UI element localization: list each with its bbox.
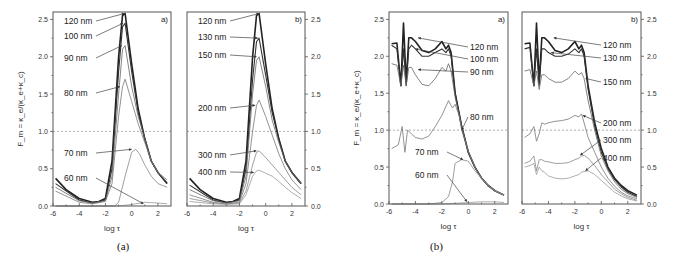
y-tick-label: 1.5 [38,91,48,98]
y-tick-label: 0.5 [647,164,657,171]
annotation-label: 130 nm [198,32,226,42]
annotation-arrow [415,49,468,59]
annotation-label: 60 nm [64,173,88,183]
x-tick-label: -4 [412,208,418,215]
x-tick-label: 0 [130,210,134,217]
annotation-label: 120 nm [64,16,92,26]
figure-canvas: -6-4-202log τ0.00.51.01.52.02.5F_m = κ_e… [0,0,675,266]
arrow-head-icon [255,37,258,40]
y-axis-label: F_m = κ_e/(κ_e+κ_c) [352,70,361,146]
y-tick-label: 1.5 [647,90,657,97]
annotation-label: 400 nm [603,153,631,163]
arrow-head-icon [129,148,132,151]
x-tick-label: 2 [493,208,497,215]
y-tick-label: 2.0 [311,53,321,60]
x-tick-label: -2 [102,210,108,217]
panel-a-right: -6-4-202log τ0.00.51.01.52.02.5b)120 nm1… [184,12,321,233]
y-tick-label: 0.0 [311,203,321,210]
annotation-arrow [96,13,124,21]
annotation-label: 400 nm [198,167,226,177]
panel-label: a) [498,15,505,24]
y-tick-label: 2.5 [38,16,48,23]
y-tick-label: 1.0 [38,128,48,135]
series-line-90-nm [392,64,504,195]
y-axis-label: F_m = κ_e/(κ_e+κ_c) [16,71,25,147]
annotation-label: 120 nm [198,16,226,26]
x-tick-label: -6 [519,208,525,215]
y-tick-label: 2.5 [311,16,321,23]
annotation-arrow [96,23,123,36]
arrow-head-icon [418,37,421,40]
caption-a: (a) [117,240,130,253]
panel-label: a) [161,15,168,24]
x-tick-label: 0 [466,208,470,215]
series-line-150-nm [525,70,637,198]
y-tick-label: 1.0 [374,127,384,134]
y-tick-label: 0.5 [38,165,48,172]
plot-frame [389,12,508,204]
annotation-label: 80 nm [64,88,88,98]
arrow-head-icon [252,104,255,107]
annotation-label: 200 nm [198,103,226,113]
x-axis-label: log τ [238,224,255,233]
y-tick-label: 1.5 [374,90,384,97]
x-tick-label: 0 [264,210,268,217]
annotation-label: 130 nm [603,53,631,63]
y-tick-label: 0.5 [374,164,384,171]
annotation-arrow [551,53,601,58]
panel-b-right: -6-4-202log τ0.00.51.01.52.02.5b)120 nm1… [519,12,657,231]
annotation-label: 90 nm [64,53,88,63]
annotation-label: 70 nm [64,148,88,158]
annotation-label: 90 nm [470,67,494,77]
annotation-label: 60 nm [415,170,439,180]
annotation-label: 200 nm [603,118,631,128]
y-tick-label: 2.0 [647,53,657,60]
y-tick-label: 2.5 [374,16,384,23]
annotation-label: 100 nm [64,31,92,41]
annotation-label: 80 nm [470,112,494,122]
panel-b-left: -6-4-202log τ0.00.51.01.52.02.5F_m = κ_e… [352,12,508,231]
y-tick-label: 2.5 [647,16,657,23]
annotation-arrow [418,38,468,47]
y-tick-label: 0.5 [311,165,321,172]
annotation-label: 150 nm [198,50,226,60]
series-line-70-nm [392,160,504,204]
annotation-label: 150 nm [603,77,631,87]
annotation-label: 120 nm [603,40,631,50]
panel-label: b) [295,15,302,24]
x-axis-label: log τ [573,222,590,231]
annotation-label: 70 nm [415,147,439,157]
caption-b: (b) [430,240,443,253]
annotation-label: 300 nm [603,135,631,145]
series-line-150-nm [190,57,302,203]
x-tick-label: -2 [439,208,445,215]
arrow-head-icon [418,68,421,71]
annotation-label: 100 nm [470,54,498,64]
x-tick-label: -4 [76,210,82,217]
y-tick-label: 0.0 [374,201,384,208]
x-tick-label: -6 [184,210,190,217]
y-tick-label: 0.0 [647,201,657,208]
panel-a-left: -6-4-202log τ0.00.51.01.52.02.5F_m = κ_e… [16,12,171,233]
x-tick-label: -6 [386,208,392,215]
arrow-head-icon [251,171,254,174]
x-tick-label: 2 [156,210,160,217]
panel-label: b) [631,15,638,24]
arrow-head-icon [580,153,583,156]
series-line-60-nm [56,202,168,206]
x-tick-label: -2 [572,208,578,215]
annotation-arrow [230,151,256,155]
annotation-label: 300 nm [198,150,226,160]
annotation-arrow [585,158,601,171]
x-tick-label: -4 [545,208,551,215]
x-tick-label: -4 [210,210,216,217]
annotation-arrow [447,175,467,202]
y-tick-label: 1.5 [311,91,321,98]
x-axis-label: log τ [104,224,121,233]
y-tick-label: 0.0 [38,203,48,210]
annotation-arrow [447,152,463,160]
x-tick-label: -6 [50,210,56,217]
x-tick-label: 2 [290,210,294,217]
series-line-400-nm [525,163,637,201]
annotation-arrow [418,70,468,72]
